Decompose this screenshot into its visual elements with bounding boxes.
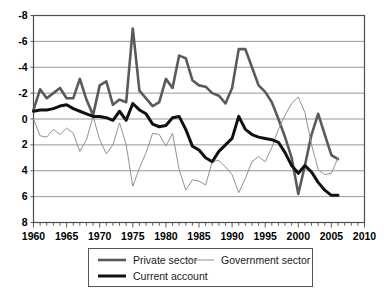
x-tick-label-1995: 1995 (254, 230, 278, 242)
x-tick-label-1990: 1990 (220, 230, 244, 242)
x-tick-label-1975: 1975 (121, 230, 145, 242)
y-tick-label-8: -8 (18, 9, 27, 21)
chart-legend[interactable]: Private sectorGovernment sectorCurrent a… (89, 249, 313, 287)
x-tick-label-2005: 2005 (320, 230, 344, 242)
x-tick-label-1970: 1970 (88, 230, 112, 242)
x-tick-label-2000: 2000 (287, 230, 311, 242)
chart-figure: 86420-2-4-6-8 19601965197019751980198519… (0, 0, 390, 292)
y-tick-label-0: 0 (22, 113, 28, 125)
y-tick-label-6: -6 (18, 35, 27, 47)
y-tick-label-2: -2 (18, 87, 27, 99)
y-tick-label--4: 4 (22, 164, 28, 176)
x-tick-label-1980: 1980 (154, 230, 178, 242)
x-tick-label-1960: 1960 (22, 230, 46, 242)
x-axis (34, 223, 365, 228)
legend-label-government-sector: Government sector (221, 254, 311, 266)
y-tick-labels: 86420-2-4-6-8 (18, 9, 28, 228)
x-tick-label-1985: 1985 (187, 230, 211, 242)
data-series (34, 28, 339, 195)
line-chart: 86420-2-4-6-8 19601965197019751980198519… (0, 0, 390, 292)
x-tick-label-1965: 1965 (55, 230, 79, 242)
x-tick-labels: 1960196519701975198019851990199520002005… (22, 230, 377, 242)
y-tick-label-4: -4 (18, 61, 27, 73)
grid-lines (34, 16, 365, 223)
x-tick-label-2010: 2010 (353, 230, 377, 242)
legend-label-current-account: Current account (133, 270, 208, 282)
y-tick-label--2: 2 (22, 138, 28, 150)
y-tick-label--6: 6 (22, 190, 28, 202)
y-tick-label--8: 8 (22, 216, 28, 228)
